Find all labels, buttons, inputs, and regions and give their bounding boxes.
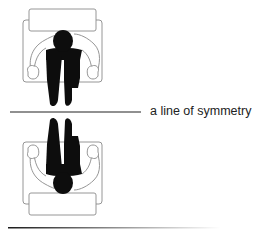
seated-person-bottom-mirrored xyxy=(23,118,102,215)
seated-person-top xyxy=(23,9,102,106)
bottom-divider-line xyxy=(8,227,220,229)
symmetry-label: a line of symmetry xyxy=(150,105,251,118)
